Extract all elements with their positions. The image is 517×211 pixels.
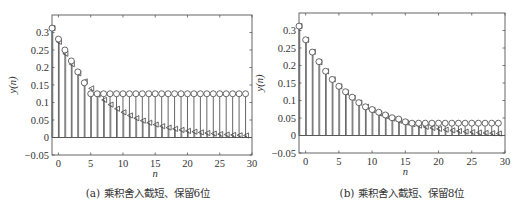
x-tick-label: 0 [56, 158, 61, 169]
marker-quantized [139, 91, 145, 97]
marker-quantized [462, 120, 468, 126]
x-tick-label: 25 [214, 158, 225, 169]
y-tick-label: 0.15 [278, 78, 296, 89]
x-tick-label: 10 [367, 156, 378, 167]
x-tick-label: 0 [303, 156, 308, 167]
marker-quantized [126, 91, 132, 97]
x-tick-label: 20 [182, 158, 193, 169]
marker-quantized [409, 120, 415, 126]
marker-quantized [316, 59, 322, 65]
x-tick-label: 20 [433, 156, 444, 167]
y-axis-label: y(n) [7, 76, 19, 94]
marker-quantized [455, 120, 461, 126]
figure: 051015202530−0.0500.050.10.150.20.250.3 … [0, 0, 517, 211]
y-tick-label: 0.25 [31, 45, 49, 56]
x-axis-label: n [153, 168, 158, 179]
marker-quantized [230, 91, 236, 97]
marker-quantized [336, 83, 342, 89]
x-tick-label: 25 [467, 156, 478, 167]
marker-quantized [369, 107, 375, 113]
marker-quantized [416, 120, 422, 126]
marker-quantized [165, 91, 171, 97]
marker-quantized [436, 120, 442, 126]
x-tick-label: 5 [88, 158, 93, 169]
marker-quantized [197, 91, 203, 97]
marker-quantized [62, 47, 68, 53]
marker-quantized [172, 91, 178, 97]
marker-quantized [309, 49, 315, 55]
marker-quantized [343, 89, 349, 95]
plot-frame [299, 13, 505, 153]
marker-quantized [184, 91, 190, 97]
y-tick-label: 0 [44, 132, 49, 143]
marker-quantized [323, 68, 329, 74]
marker-quantized [362, 104, 368, 110]
y-axis-label: y(n) [254, 74, 266, 92]
x-axis-label: n [403, 166, 408, 177]
marker-quantized [495, 120, 501, 126]
marker-quantized [133, 91, 139, 97]
marker-quantized [68, 58, 74, 64]
y-tick-label: −0.05 [272, 148, 296, 159]
y-tick-label: 0.1 [283, 95, 296, 106]
marker-quantized [114, 91, 120, 97]
marker-quantized [489, 120, 495, 126]
marker-quantized [429, 120, 435, 126]
x-tick-label: 30 [247, 158, 258, 169]
marker-quantized [101, 91, 107, 97]
marker-quantized [442, 120, 448, 126]
marker-quantized [402, 119, 408, 125]
marker-quantized [449, 120, 455, 126]
marker-quantized [243, 91, 249, 97]
marker-quantized [49, 25, 55, 31]
marker-quantized [389, 115, 395, 121]
y-tick-label: 0.05 [278, 113, 296, 124]
x-tick-label: 10 [118, 158, 129, 169]
y-tick-label: 0.05 [31, 115, 49, 126]
y-tick-label: 0.2 [283, 60, 296, 71]
x-tick-label: 5 [336, 156, 341, 167]
marker-quantized [210, 91, 216, 97]
marker-quantized [217, 91, 223, 97]
tick-group: 051015202530−0.0500.050.10.150.20.250.3 [272, 13, 511, 167]
y-tick-label: −0.05 [25, 150, 49, 161]
marker-quantized [94, 91, 100, 97]
y-tick-label: 0.1 [36, 97, 49, 108]
y-tick-label: 0.2 [36, 62, 49, 73]
marker-quantized [236, 91, 242, 97]
marker-quantized [204, 91, 210, 97]
marker-quantized [81, 80, 87, 86]
marker-quantized [469, 120, 475, 126]
marker-quantized [159, 91, 165, 97]
marker-quantized [223, 91, 229, 97]
marker-quantized [303, 37, 309, 43]
marker-quantized [396, 116, 402, 122]
marker-quantized [178, 91, 184, 97]
x-tick-label: 30 [500, 156, 511, 167]
marker-quantized [55, 36, 61, 42]
marker-quantized [382, 112, 388, 118]
marker-quantized [329, 76, 335, 82]
marker-quantized [482, 120, 488, 126]
marker-quantized [120, 91, 126, 97]
marker-quantized [191, 91, 197, 97]
marker-quantized [422, 120, 428, 126]
marker-quantized [88, 91, 94, 97]
marker-quantized [152, 91, 158, 97]
marker-quantized [356, 100, 362, 106]
y-tick-label: 0.25 [278, 43, 296, 54]
stem-group [296, 23, 505, 136]
panel-a: 051015202530−0.0500.050.10.150.20.250.3 … [7, 15, 257, 199]
caption: (b) 乘积舍入截短、保留8位 [340, 187, 466, 199]
marker-quantized [75, 69, 81, 75]
marker-quantized [349, 94, 355, 100]
y-tick-label: 0.15 [31, 80, 49, 91]
caption: (a) 乘积舍入截短、保留6位 [86, 187, 211, 199]
y-tick-label: 0.3 [36, 27, 49, 38]
panel-b: 051015202530−0.0500.050.10.150.20.250.3 … [254, 13, 510, 199]
marker-quantized [296, 23, 302, 29]
marker-quantized [107, 91, 113, 97]
marker-quantized [475, 120, 481, 126]
y-tick-label: 0.3 [283, 25, 296, 36]
y-tick-label: 0 [291, 130, 296, 141]
